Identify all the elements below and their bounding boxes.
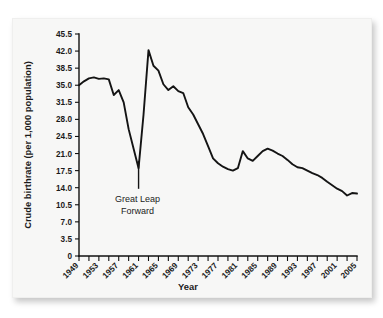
y-tick-label: 42.0 — [56, 47, 72, 56]
x-tick-label: 1961 — [121, 261, 141, 281]
annotation-line-1: Great Leap — [115, 194, 160, 204]
x-tick-label: 1965 — [141, 261, 161, 281]
y-tick-label: 31.5 — [56, 98, 72, 107]
y-tick-label: 10.5 — [56, 201, 72, 210]
x-tick-label: 1993 — [280, 261, 300, 281]
data-series-line — [79, 50, 357, 195]
y-tick-label: 17.5 — [56, 167, 72, 176]
y-tick-label: 28.0 — [56, 115, 72, 124]
x-tick-label: 1989 — [260, 261, 280, 281]
x-tick-label: 1969 — [160, 261, 180, 281]
y-tick-label: 21.0 — [56, 150, 72, 159]
y-tick-label: 38.5 — [56, 64, 72, 73]
annotation-line-2: Forward — [121, 206, 154, 216]
y-tick-label: 24.5 — [56, 132, 72, 141]
y-tick-label: 3.5 — [61, 235, 73, 244]
y-tick-label: 35.0 — [56, 81, 72, 90]
y-tick-label: 0 — [67, 252, 72, 261]
x-tick-label: 1949 — [61, 261, 81, 281]
x-axis-title: Year — [178, 281, 198, 292]
y-tick-label: 14.0 — [56, 184, 72, 193]
x-tick-label: 2005 — [339, 261, 359, 281]
y-axis-title: Crude birthrate (per 1,000 population) — [22, 61, 33, 229]
x-tick-label: 1977 — [200, 261, 220, 281]
figure-card: 03.57.010.514.017.521.024.528.031.535.03… — [12, 18, 372, 298]
y-tick-label: 45.5 — [56, 30, 72, 39]
x-tick-label: 1953 — [81, 261, 101, 281]
birthrate-line-chart: 03.57.010.514.017.521.024.528.031.535.03… — [13, 19, 371, 297]
y-tick-label: 7.0 — [61, 218, 73, 227]
x-tick-label: 1981 — [220, 261, 240, 281]
x-tick-label: 1957 — [101, 261, 121, 281]
x-tick-label: 1973 — [180, 261, 200, 281]
x-tick-label: 2001 — [319, 261, 339, 281]
x-tick-label: 1997 — [299, 261, 319, 281]
x-tick-label: 1985 — [240, 261, 260, 281]
